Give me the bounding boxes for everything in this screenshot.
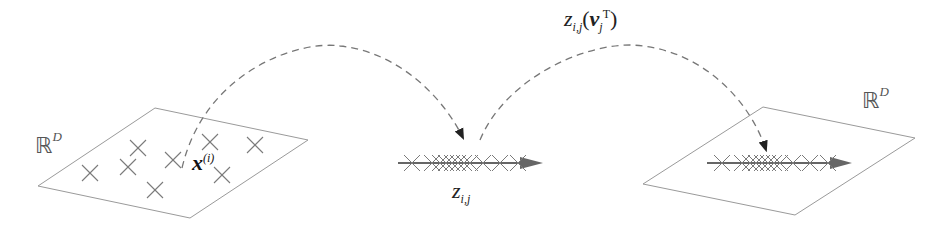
projection-arc-arrow xyxy=(182,45,463,168)
reconstruction-label-open: ( xyxy=(582,6,589,31)
right-plane xyxy=(643,107,915,215)
point-label: x(i) xyxy=(192,150,214,176)
projection-label-sub: i,j xyxy=(461,192,471,206)
reconstruction-label: zi,j(vjT) xyxy=(564,6,617,35)
right-space-label: ℝD xyxy=(862,88,889,113)
left-data-points xyxy=(82,134,263,198)
right-space-symbol: ℝ xyxy=(862,88,879,113)
reconstruction-label-v: v xyxy=(590,6,600,31)
reconstruction-label-arg-sub: j xyxy=(599,20,602,34)
projection-label-base: z xyxy=(452,178,461,203)
left-space-symbol: ℝ xyxy=(35,133,52,158)
reconstruction-label-close: ) xyxy=(610,6,617,31)
point-label-base: x xyxy=(192,150,203,175)
projection-label: zi,j xyxy=(452,178,470,207)
reconstruction-label-base: z xyxy=(564,6,573,31)
reconstruction-arc-arrow xyxy=(480,45,766,150)
left-space-label: ℝD xyxy=(35,133,62,158)
reconstruction-label-arg-sup: T xyxy=(603,7,610,21)
point-label-index: (i) xyxy=(203,151,214,165)
left-space-dim: D xyxy=(52,129,61,144)
right-space-dim: D xyxy=(879,84,888,99)
reconstruction-label-sub: i,j xyxy=(573,20,583,34)
left-plane xyxy=(38,108,308,218)
